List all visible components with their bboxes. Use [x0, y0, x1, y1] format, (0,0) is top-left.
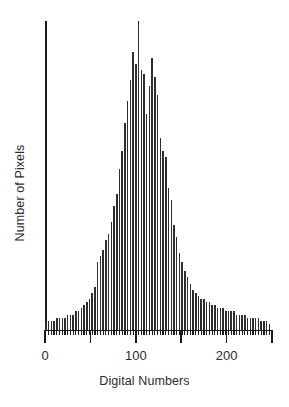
histogram-bar	[250, 318, 252, 330]
histogram-bar	[89, 299, 91, 330]
histogram-bar	[195, 293, 197, 330]
x-axis-major-tick	[90, 330, 92, 343]
histogram-bar	[116, 194, 118, 330]
histogram-bar	[100, 256, 102, 330]
histogram-bar	[211, 305, 213, 330]
histogram-bar	[81, 308, 83, 330]
histogram-bar	[162, 151, 164, 330]
histogram-bar	[181, 262, 183, 330]
histogram-bar	[179, 253, 181, 330]
x-axis-major-tick	[135, 330, 137, 343]
histogram-bar	[173, 225, 175, 330]
histogram-bar	[113, 206, 115, 330]
x-axis-major-tick	[180, 330, 182, 343]
histogram-bar	[102, 250, 104, 330]
histogram-bar	[105, 240, 107, 330]
histogram-bar	[75, 311, 77, 330]
histogram-bar	[217, 308, 219, 330]
histogram-bar	[86, 302, 88, 330]
histogram-bar	[97, 262, 99, 330]
x-axis-major-tick	[226, 330, 228, 343]
histogram-bars	[45, 21, 273, 330]
x-axis-tick-labels: 0100200	[0, 348, 289, 368]
histogram-bar	[160, 138, 162, 330]
histogram-bar	[62, 318, 64, 330]
histogram-bar	[124, 123, 126, 330]
histogram-bar	[228, 311, 230, 330]
histogram-bar	[64, 318, 66, 330]
histogram-bar	[132, 52, 134, 330]
histogram-bar	[135, 64, 137, 330]
histogram-bar	[171, 200, 173, 330]
histogram-bar	[127, 101, 129, 330]
y-axis-title: Number of Pixels	[0, 0, 36, 407]
histogram-bar	[67, 315, 69, 330]
histogram-bar	[168, 188, 170, 330]
histogram-bar	[121, 151, 123, 330]
histogram-bar	[258, 318, 260, 330]
histogram-bar	[78, 311, 80, 330]
histogram-bar	[141, 70, 143, 330]
histogram-bar	[119, 169, 121, 330]
x-axis-tick-label: 100	[125, 348, 147, 363]
histogram-bar	[198, 296, 200, 330]
histogram-bar	[149, 86, 151, 330]
histogram-bar	[108, 234, 110, 330]
x-axis-major-tick	[44, 330, 46, 343]
histogram-bar	[214, 305, 216, 330]
histogram-bar	[56, 318, 58, 330]
histogram-bar	[225, 311, 227, 330]
histogram-bar	[176, 237, 178, 330]
histogram-figure: Number of Pixels 0100200 Digital Numbers	[0, 0, 289, 407]
histogram-bar	[165, 157, 167, 330]
x-axis-title-label: Digital Numbers	[0, 374, 289, 388]
histogram-bar	[184, 271, 186, 330]
histogram-bar	[59, 318, 61, 330]
histogram-bar	[203, 299, 205, 330]
histogram-bar	[236, 315, 238, 330]
histogram-bar	[130, 80, 132, 330]
histogram-bar	[252, 318, 254, 330]
histogram-bar	[206, 302, 208, 330]
histogram-bar	[111, 222, 113, 330]
histogram-bar	[72, 315, 74, 330]
histogram-bar	[255, 318, 257, 330]
histogram-bar	[220, 308, 222, 330]
histogram-bar	[192, 290, 194, 330]
histogram-bar	[91, 293, 93, 330]
x-axis-ticks	[45, 330, 273, 346]
histogram-bar	[200, 299, 202, 330]
histogram-bar	[239, 315, 241, 330]
histogram-bar	[157, 95, 159, 330]
histogram-bar	[187, 277, 189, 330]
histogram-bar	[244, 315, 246, 330]
histogram-bar	[241, 315, 243, 330]
x-axis-tick-label: 0	[41, 348, 48, 363]
histogram-bar	[70, 315, 72, 330]
x-axis-major-tick	[271, 330, 273, 343]
histogram-bar	[247, 318, 249, 330]
histogram-bar	[230, 311, 232, 330]
histogram-bar	[209, 302, 211, 330]
y-axis-title-label: Number of Pixels	[13, 63, 27, 323]
histogram-bar	[154, 77, 156, 330]
histogram-bar	[83, 305, 85, 330]
histogram-bar	[94, 287, 96, 330]
plot-area	[45, 21, 273, 331]
histogram-bar	[151, 58, 153, 330]
histogram-bar	[146, 114, 148, 330]
x-axis-tick-label: 200	[216, 348, 238, 363]
histogram-bar	[190, 284, 192, 330]
histogram-bar	[143, 74, 145, 330]
histogram-bar	[138, 21, 140, 330]
histogram-bar	[233, 311, 235, 330]
histogram-bar	[222, 308, 224, 330]
